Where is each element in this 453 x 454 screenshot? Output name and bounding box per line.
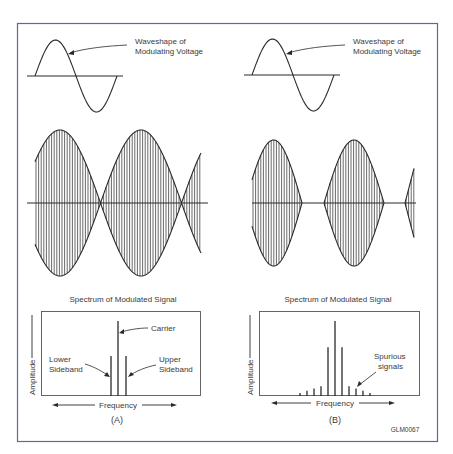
lower-sideband-label-line1: Lower: [49, 355, 71, 364]
spectrum-title-b: Spectrum of Modulated Signal: [284, 295, 391, 304]
upper-sideband-arrowhead: [128, 372, 134, 377]
carrier-label-a: Carrier: [151, 324, 176, 333]
modulating-waveshape-b: [244, 39, 340, 111]
frequency-arrowhead-right-a: [171, 403, 177, 407]
carrier-arrowhead-a: [119, 329, 124, 334]
figure-code: GLM0067: [391, 426, 420, 433]
modulated-waveform-b-overmodulated: [252, 140, 416, 266]
panel-label-b: (B): [329, 415, 341, 425]
callout-arrow-a: [70, 45, 127, 53]
modulated-waveform-a: [27, 130, 208, 276]
callout-arrow-b: [288, 45, 345, 53]
callout-text-a-line2: Modulating Voltage: [135, 47, 204, 56]
amplitude-axis-label-a: Amplitude: [28, 359, 37, 395]
spectrum-box-a: [42, 312, 201, 396]
amplitude-axis-label-b: Amplitude: [246, 359, 255, 395]
frequency-arrowhead-left-b: [271, 401, 277, 405]
spurious-label-line2: signals: [378, 362, 403, 371]
modulating-waveshape-a: [27, 40, 123, 112]
lower-sideband-arrowhead: [104, 372, 110, 377]
spurious-arrow: [359, 372, 376, 385]
callout-text-a-line1: Waveshape of: [135, 37, 187, 46]
callout-arrowhead-b: [286, 50, 292, 55]
spectrum-title-a: Spectrum of Modulated Signal: [69, 295, 176, 304]
frequency-arrowhead-left-a: [52, 403, 58, 407]
spurious-label-line1: Spurious: [374, 352, 406, 361]
panel-label-a: (A): [111, 415, 123, 425]
callout-text-b-line1: Waveshape of: [353, 37, 405, 46]
am-modulation-diagram: Waveshape of Modulating Voltage Spectrum…: [0, 0, 453, 454]
frequency-axis-label-b: Frequency: [316, 399, 354, 408]
panel-b: Waveshape of Modulating Voltage Spectrum…: [244, 37, 422, 433]
carrier-arrow-a: [121, 328, 148, 332]
callout-arrowhead-a: [68, 50, 74, 55]
lower-sideband-label-line2: Sideband: [49, 365, 83, 374]
upper-sideband-label-line1: Upper: [159, 355, 181, 364]
frequency-axis-label-a: Frequency: [99, 401, 137, 410]
spurious-arrowhead: [357, 381, 362, 387]
frequency-arrowhead-right-b: [389, 401, 395, 405]
panel-a: Waveshape of Modulating Voltage Spectrum…: [27, 37, 208, 425]
upper-sideband-label-line2: Sideband: [159, 365, 193, 374]
callout-text-b-line2: Modulating Voltage: [353, 47, 422, 56]
